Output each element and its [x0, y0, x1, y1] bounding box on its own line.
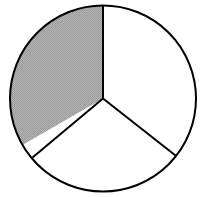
fraction-circle-diagram [0, 0, 201, 197]
